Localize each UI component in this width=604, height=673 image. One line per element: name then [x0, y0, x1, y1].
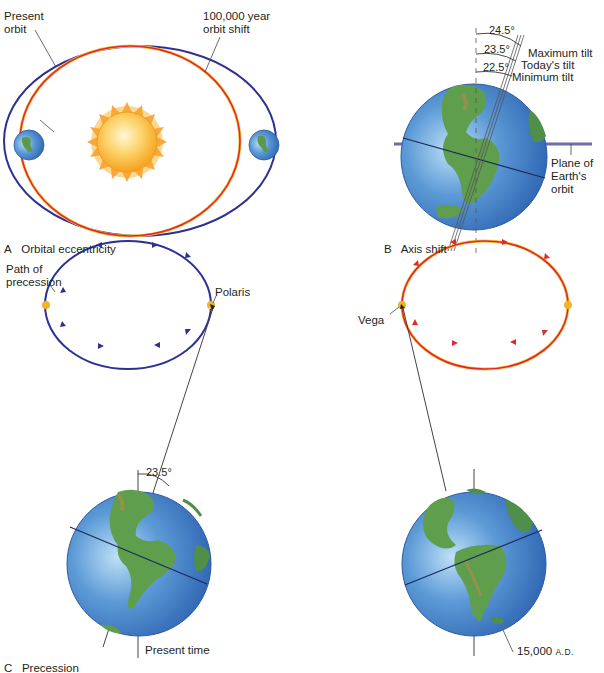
earth-icon-right	[249, 130, 279, 160]
label-polaris: Polaris	[215, 286, 250, 299]
label-line: orbit shift	[203, 23, 270, 36]
label-line: orbit	[551, 183, 593, 196]
earth-globe-c2	[402, 488, 546, 636]
label-15000-ad: 15,000 A.D.	[517, 645, 574, 659]
earth-globe-c1	[67, 490, 211, 636]
label-line: Plane of	[551, 157, 593, 170]
panel-c-future	[390, 239, 572, 656]
label-path-of-precession: Path of precession	[6, 263, 62, 289]
caption-text: Axis shift	[401, 243, 447, 255]
caption-a: A Orbital eccentricity	[4, 243, 116, 255]
caption-letter: C	[4, 662, 12, 673]
precession-path-blue	[45, 241, 211, 369]
caption-b: B Axis shift	[384, 243, 447, 255]
label-line: Present	[4, 10, 44, 23]
era-label: A.D.	[555, 647, 574, 657]
label-line: precession	[6, 276, 62, 289]
angle-precession: 23.5°	[146, 466, 172, 479]
label-present-orbit: Present orbit	[4, 10, 44, 36]
star-dot	[564, 301, 572, 309]
year-number: 15,000	[517, 645, 552, 657]
label-minimum-tilt: Minimum tilt	[512, 71, 573, 84]
label-line: 100,000 year	[203, 10, 270, 23]
angle-today: 23.5°	[484, 43, 510, 56]
sun-icon	[87, 102, 167, 182]
label-line: Path of	[6, 263, 62, 276]
caption-letter: A	[4, 243, 12, 255]
panel-a-orbital-eccentricity	[4, 30, 279, 236]
caption-c: C Precession	[4, 662, 79, 673]
label-vega: Vega	[358, 314, 384, 327]
diagram-canvas	[0, 0, 604, 673]
label-plane-of-orbit: Plane of Earth's orbit	[551, 157, 593, 196]
label-line: Earth's	[551, 170, 593, 183]
earth-globe-b	[401, 84, 547, 230]
label-line: orbit	[4, 23, 44, 36]
label-orbit-shift: 100,000 year orbit shift	[203, 10, 270, 36]
angle-min: 22.5°	[483, 61, 509, 74]
label-present-time: Present time	[145, 644, 210, 657]
caption-text: Precession	[22, 662, 79, 673]
angle-max: 24.5°	[489, 24, 515, 37]
star-dot	[42, 301, 50, 309]
caption-letter: B	[384, 243, 392, 255]
earth-axis-c2	[403, 308, 446, 491]
caption-text: Orbital eccentricity	[21, 243, 116, 255]
panel-c-present	[40, 120, 216, 658]
earth-icon-left	[14, 130, 44, 160]
